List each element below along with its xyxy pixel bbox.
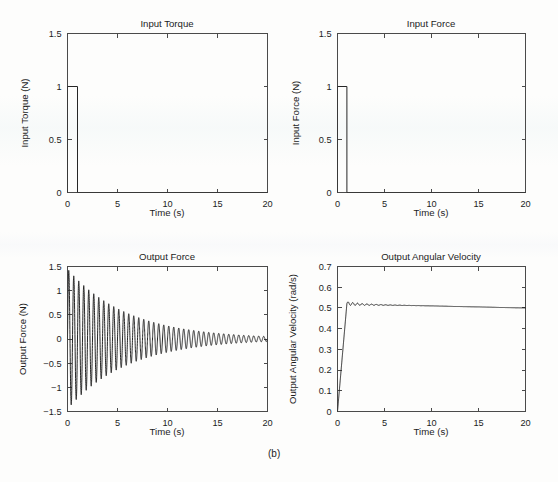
x-tick-label: 5 [382,418,387,428]
chart-title: Input Torque [140,18,193,29]
x-tick-label: 5 [115,418,120,428]
chart-input-force: Input Force Time (s) Input Force (N) 051… [279,0,558,241]
y-tick-label: 0.1 [319,386,332,396]
y-tick-label: 0 [326,188,331,198]
plot-area-output-force [68,267,268,412]
chart-output-force: Output Force Time (s) Output Force (N) 0… [0,241,279,482]
y-axis-label: Output Force (N) [17,303,28,375]
y-tick-label: 1.5 [49,29,62,39]
x-tick-label: 10 [162,418,172,428]
data-line-output-angular-velocity [338,302,526,412]
axis-box [338,34,526,193]
chart-svg-input-force: Input Force Time (s) Input Force (N) 051… [279,0,558,241]
x-tick-label: 20 [520,199,530,209]
y-tick-label: 0 [56,334,61,344]
x-axis-label: Time (s) [150,426,185,437]
x-tick-label: 20 [262,199,272,209]
y-tick-label: −0.5 [43,359,61,369]
chart-svg-output-angular-velocity: Output Angular Velocity Time (s) Output … [279,241,558,482]
x-tick-label: 10 [426,418,436,428]
x-tick-label: 10 [426,199,436,209]
y-tick-label: 0.5 [49,135,62,145]
x-tick-label: 0 [335,199,340,209]
tick-marks [68,34,268,193]
tick-marks [338,34,526,193]
y-tick-label: 1.5 [49,262,62,272]
tick-marks [338,267,526,412]
x-tick-label: 15 [212,418,222,428]
plot-area-output-angular-velocity [338,267,526,412]
x-axis-label: Time (s) [414,426,449,437]
chart-title: Output Force [139,251,195,262]
x-tick-label: 5 [115,199,120,209]
y-tick-labels: 00.511.5 [319,29,332,198]
y-tick-label: 0.5 [49,310,62,320]
chart-input-torque: Input Torque Time (s) Input Torque (N) 0… [0,0,279,241]
x-tick-label: 20 [262,418,272,428]
x-tick-labels: 05101520 [65,418,273,428]
y-tick-label: 0.3 [319,345,332,355]
x-tick-label: 15 [473,199,483,209]
y-tick-label: 0.5 [319,303,332,313]
y-tick-label: −1.5 [43,407,61,417]
chart-svg-input-torque: Input Torque Time (s) Input Torque (N) 0… [0,0,279,241]
axis-box [68,34,268,193]
y-tick-label: 1 [326,82,331,92]
y-tick-label: 0.2 [319,365,332,375]
x-tick-labels: 05101520 [335,199,531,209]
x-tick-label: 0 [65,199,70,209]
y-tick-labels: 00.511.5 [49,29,62,198]
y-tick-label: 0.4 [319,324,332,334]
y-tick-label: 0 [326,407,331,417]
y-tick-label: 1 [56,82,61,92]
x-tick-label: 0 [335,418,340,428]
y-tick-labels: −1.5−1−0.500.511.5 [43,262,61,417]
y-tick-label: 0.5 [319,135,332,145]
x-axis-label: Time (s) [414,207,449,218]
data-line-output-force [68,270,268,404]
x-tick-labels: 05101520 [65,199,273,209]
x-tick-label: 10 [162,199,172,209]
data-line-input-force [338,87,526,193]
y-axis-label: Output Angular Velocity (rad/s) [287,274,298,404]
chart-title: Output Angular Velocity [381,251,481,262]
chart-svg-output-force: Output Force Time (s) Output Force (N) 0… [0,241,279,482]
y-tick-label: −1 [51,383,61,393]
x-axis-label: Time (s) [150,207,185,218]
subfigure-label: (b) [268,448,280,459]
x-tick-label: 15 [212,199,222,209]
figure-panel-b: Input Torque Time (s) Input Torque (N) 0… [0,0,558,482]
y-tick-label: 1.5 [319,29,332,39]
x-tick-label: 0 [65,418,70,428]
x-tick-label: 20 [520,418,530,428]
y-tick-label: 0.6 [319,283,332,293]
y-tick-label: 0 [56,188,61,198]
y-axis-label: Input Torque (N) [19,78,30,147]
x-tick-labels: 05101520 [335,418,531,428]
y-axis-label: Input Force (N) [290,81,301,146]
y-tick-label: 1 [56,286,61,296]
chart-title: Input Force [407,18,456,29]
x-tick-label: 5 [382,199,387,209]
x-tick-label: 15 [473,418,483,428]
plot-area-input-force [338,34,526,193]
chart-output-angular-velocity: Output Angular Velocity Time (s) Output … [279,241,558,482]
y-tick-labels: 00.10.20.30.40.50.60.7 [319,262,332,417]
y-tick-label: 0.7 [319,262,332,272]
data-line-input-torque [68,87,268,193]
plot-area-input-torque [68,34,268,193]
axis-box [338,267,526,412]
